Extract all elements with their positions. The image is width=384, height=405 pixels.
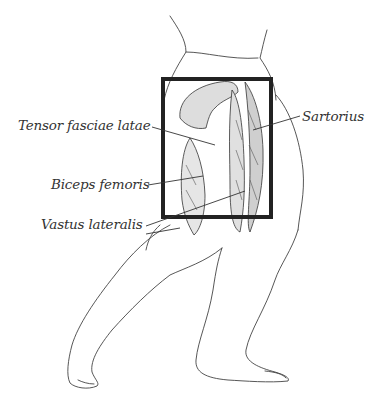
muscles: [180, 81, 263, 235]
label-biceps-femoris: Biceps femoris: [51, 176, 149, 192]
label-vastus-lateralis: Vastus lateralis: [41, 216, 142, 232]
label-tensor-fasciae-latae: Tensor fasciae latae: [18, 117, 150, 133]
anatomy-figure: [0, 0, 384, 405]
label-sartorius: Sartorius: [302, 108, 364, 124]
